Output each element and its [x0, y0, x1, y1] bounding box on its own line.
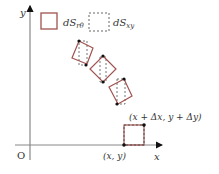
area-element-origin [122, 123, 146, 147]
legend-dashed-label: dSxy [113, 17, 135, 30]
origin-label: O [17, 150, 25, 161]
legend-solid-label: dSrθ [63, 17, 85, 30]
area-element-3 [109, 77, 132, 105]
vertex-dot [101, 80, 104, 83]
area-element-2 [90, 54, 116, 83]
legend-dashed-swatch [89, 13, 109, 31]
area-element-1 [72, 39, 93, 66]
point-label-end: (x + Δx, y + Δy) [129, 112, 202, 122]
vertex-dot [122, 143, 126, 147]
vertex-dot [142, 123, 146, 127]
y-axis-label: y [19, 7, 26, 18]
legend-solid-swatch [41, 13, 57, 29]
vertex-dot [77, 39, 80, 42]
vertex-dot [84, 63, 87, 66]
diagram-canvas: y x O dSrθ dSxy [0, 0, 219, 174]
vertex-dot [115, 102, 118, 105]
x-axis-label: x [154, 151, 160, 162]
vertex-dot [122, 77, 125, 80]
diagram: y x O dSrθ dSxy [0, 0, 219, 174]
vertex-dot [101, 54, 104, 57]
point-label-start: (x, y) [103, 151, 126, 161]
